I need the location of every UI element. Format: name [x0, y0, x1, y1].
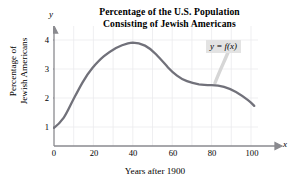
y-tick-label-4: 4	[37, 35, 49, 45]
x-axis-title: Years after 1900	[80, 166, 230, 176]
chart-figure: Percentage of the U.S. Population Consis…	[0, 0, 303, 186]
x-tick-label-0: 0	[43, 148, 65, 158]
x-tick-label-40: 40	[122, 148, 144, 158]
x-tick-label-100: 100	[241, 148, 263, 158]
x-tick-label-60: 60	[162, 148, 184, 158]
y-axis-letter: y	[49, 9, 53, 19]
annotation-leader-line	[215, 50, 229, 83]
y-tick-label-1: 1	[37, 122, 49, 132]
y-axis-title-line-1: Percentage of	[8, 16, 19, 126]
x-tick-label-80: 80	[201, 148, 223, 158]
y-axis-title: Percentage of Jewish Americans	[8, 16, 30, 126]
data-curve	[54, 43, 254, 128]
y-axis-title-line-2: Jewish Americans	[19, 16, 30, 126]
chart-title-line-1: Percentage of the U.S. Population	[62, 6, 277, 18]
y-tick-label-3: 3	[37, 64, 49, 74]
function-annotation-label: y = f(x)	[206, 40, 241, 53]
chart-canvas	[53, 26, 293, 166]
x-tick-label-20: 20	[83, 148, 105, 158]
y-tick-label-2: 2	[37, 93, 49, 103]
